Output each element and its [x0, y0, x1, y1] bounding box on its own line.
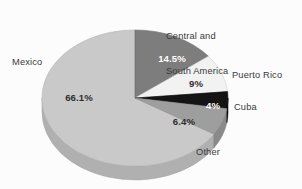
category-label-central-south-america: Central and South America: [166, 8, 228, 100]
slice-value-other: 6.4%: [173, 116, 196, 127]
pie-chart-svg: 66.1% 14.5% 9% 4% 6.4%: [0, 0, 302, 189]
category-label-other: Other: [196, 147, 220, 159]
category-label-central-south-america-line2: South America: [166, 66, 228, 78]
category-label-puerto-rico: Puerto Rico: [232, 70, 282, 82]
category-label-cuba: Cuba: [234, 102, 257, 114]
category-label-mexico: Mexico: [12, 57, 42, 69]
category-label-central-south-america-line1: Central and: [166, 31, 228, 43]
slice-value-mexico: 66.1%: [65, 92, 93, 103]
slice-value-cuba: 4%: [206, 100, 220, 111]
pie-chart-figure: 66.1% 14.5% 9% 4% 6.4% Mexico Central an…: [0, 0, 302, 189]
